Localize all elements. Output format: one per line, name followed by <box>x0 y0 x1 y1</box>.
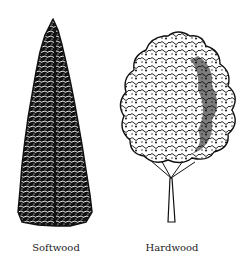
softwood-label: Softwood <box>16 242 96 253</box>
hardwood-label: Hardwood <box>132 242 212 253</box>
tree-illustrations <box>0 0 249 268</box>
deciduous-tree-icon <box>120 32 235 222</box>
conifer-tree-icon <box>18 19 92 226</box>
